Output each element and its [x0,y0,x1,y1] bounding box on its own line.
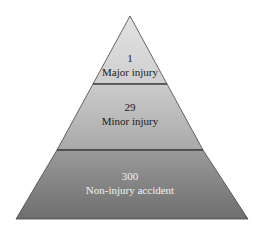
major-injury-label: Major injury [102,66,158,78]
minor-injury-count: 29 [125,101,137,113]
major-injury-count: 1 [127,52,133,64]
accident-pyramid: 1 Major injury 29 Minor injury 300 Non-i… [0,0,260,231]
minor-injury-label: Minor injury [102,115,159,127]
non-injury-count: 300 [122,170,139,182]
non-injury-label: Non-injury accident [86,184,174,196]
